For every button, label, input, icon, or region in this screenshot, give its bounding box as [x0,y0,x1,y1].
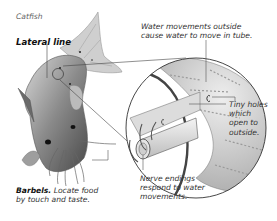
label-tiny-holes-line1: Tiny holes [229,100,268,109]
label-water-movements: Water movements outside cause water to m… [141,22,252,40]
label-barbels-bold: Barbels. [16,186,51,195]
pointer-barbels [92,150,108,160]
diagram-title: Catfish [16,12,43,21]
label-nerve-line1: Nerve endings [140,174,205,183]
label-tiny-holes-line3: open to [229,118,268,127]
label-barbels-line1: Barbels. Locate food [16,186,98,195]
label-barbels: Barbels. Locate food by touch and taste. [16,186,98,204]
label-tiny-holes-line2: which [229,109,268,118]
label-water-movements-line2: cause water to move in tube. [141,31,252,40]
label-water-movements-line1: Water movements outside [141,22,252,31]
label-barbels-line2: by touch and taste. [16,195,98,204]
label-nerve-line2: respond to water [140,183,205,192]
label-nerve-endings: Nerve endings respond to water movements… [140,174,205,202]
label-barbels-rest: Locate food [51,186,98,195]
label-tiny-holes-line4: outside. [229,128,268,137]
label-nerve-line3: movements. [140,192,205,201]
label-lateral-line: Lateral line [16,38,71,47]
label-tiny-holes: Tiny holes which open to outside. [229,100,268,137]
